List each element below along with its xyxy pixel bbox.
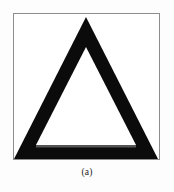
figure-container: (a) bbox=[0, 0, 174, 192]
image-panel bbox=[13, 13, 160, 160]
base-highlight-line bbox=[36, 145, 136, 148]
triangle-image bbox=[14, 14, 159, 159]
figure-caption: (a) bbox=[0, 166, 174, 178]
